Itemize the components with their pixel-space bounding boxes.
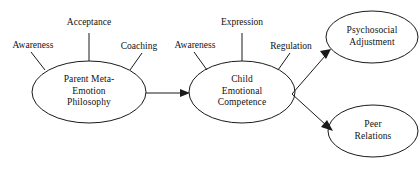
tick-child-regulation	[278, 53, 290, 70]
tick-parent-coaching	[130, 53, 142, 70]
indicator-label-child-expression: Expression	[211, 17, 273, 28]
node-parent-meta-emotion-philosophy[interactable]	[32, 61, 146, 123]
arrow-child-to-peer[interactable]	[292, 94, 333, 131]
indicator-label-parent-coaching: Coaching	[110, 41, 168, 52]
tick-child-awareness	[194, 52, 207, 70]
node-peer-relations[interactable]	[328, 105, 418, 157]
node-psychosocial-adjustment[interactable]	[326, 11, 418, 63]
indicator-label-child-awareness: Awareness	[164, 40, 226, 51]
indicator-label-parent-acceptance: Acceptance	[57, 17, 121, 28]
indicator-label-child-regulation: Regulation	[261, 41, 321, 52]
indicator-label-parent-awareness: Awareness	[2, 40, 64, 51]
arrow-child-to-psychosocial[interactable]	[292, 49, 331, 94]
arrow-parent-to-child[interactable]	[146, 89, 190, 97]
path-diagram: Parent Meta- Emotion Philosophy Child Em…	[0, 0, 420, 170]
tick-parent-awareness	[31, 52, 45, 70]
node-child-emotional-competence[interactable]	[189, 61, 295, 123]
